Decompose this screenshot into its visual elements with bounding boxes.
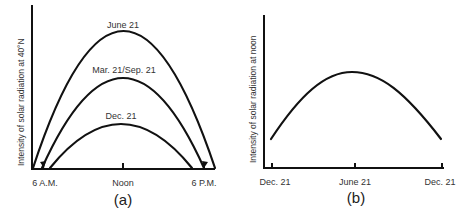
panel-a-caption: (a) xyxy=(114,191,132,208)
xtick-label-dec-21-end: Dec. 21 xyxy=(424,177,455,187)
curve-noon-intensity xyxy=(271,72,441,139)
label-dec-21: Dec. 21 xyxy=(105,111,136,121)
xtick-label-6pm: 6 P.M. xyxy=(192,178,217,188)
xtick-label-dec-21-start: Dec. 21 xyxy=(259,177,290,187)
panel-a: June 21 Mar. 21/Sep. 21 Dec. 21 6 A.M. N… xyxy=(16,5,216,208)
label-june-21: June 21 xyxy=(107,20,139,30)
panel-a-ylabel: Intensity of solar radiation at 40°N xyxy=(16,38,26,166)
xtick-label-6am: 6 A.M. xyxy=(32,178,58,188)
panel-b-axes xyxy=(264,15,444,168)
xtick-label-noon: Noon xyxy=(112,178,134,188)
panel-b-ylabel: Intensity of solar radiation at noon xyxy=(248,35,258,163)
label-equinox: Mar. 21/Sep. 21 xyxy=(92,65,156,75)
curve-june-21 xyxy=(33,31,215,168)
panel-b-caption: (b) xyxy=(347,189,365,206)
figure: June 21 Mar. 21/Sep. 21 Dec. 21 6 A.M. N… xyxy=(0,0,468,213)
panel-b: Dec. 21 June 21 Dec. 21 Intensity of sol… xyxy=(248,15,456,206)
xtick-label-june-21: June 21 xyxy=(339,177,371,187)
curve-dec-21 xyxy=(50,124,192,168)
